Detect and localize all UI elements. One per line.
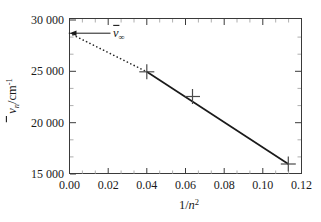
x-tick-label: 0.04: [136, 178, 157, 192]
x-tick-label: 0.02: [98, 178, 119, 192]
x-axis-title-numerator: 1/: [179, 198, 189, 212]
y-axis-title-unit: /cm: [5, 85, 19, 104]
y-axis-tick-labels: 15 000 20 000 25 000 30 000: [31, 13, 64, 181]
svg-text:1/n2: 1/n2: [179, 197, 199, 212]
rydberg-plot: v∞ 0.00 0.02 0.04 0.06 0.08 0.10 0.12 15…: [0, 0, 321, 222]
y-tick-label: 20 000: [31, 116, 64, 130]
series-limit-subscript: ∞: [119, 32, 125, 42]
x-axis-tick-labels: 0.00 0.02 0.04 0.06 0.08 0.10 0.12: [59, 178, 312, 192]
x-tick-label: 0.12: [291, 178, 312, 192]
x-tick-label: 0.08: [214, 178, 235, 192]
y-tick-label: 25 000: [31, 64, 64, 78]
y-axis-title: vn/cm-1: [4, 78, 21, 122]
y-tick-label: 30 000: [31, 13, 64, 27]
y-tick-label: 15 000: [31, 167, 64, 181]
x-tick-label: 0.06: [175, 178, 196, 192]
x-axis-title-exponent: 2: [195, 197, 199, 207]
chart-figure: v∞ 0.00 0.02 0.04 0.06 0.08 0.10 0.12 15…: [0, 0, 321, 222]
y-axis-title-unit-exponent: -1: [4, 78, 14, 85]
svg-text:vn/cm-1: vn/cm-1: [4, 78, 21, 114]
x-tick-label: 0.10: [252, 178, 273, 192]
x-axis-title: 1/n2: [179, 197, 199, 212]
